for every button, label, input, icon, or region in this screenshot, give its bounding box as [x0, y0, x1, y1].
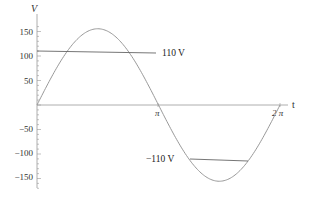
- y-tick-neg100: −100: [14, 148, 33, 158]
- y-axis-label: V: [31, 3, 39, 14]
- x-tick-label-pi: π: [155, 108, 160, 118]
- y-tick-50: 50: [24, 76, 34, 86]
- x-axis-label: t: [292, 99, 295, 110]
- annotation-110v: 110 V: [162, 48, 185, 58]
- y-tick-150: 150: [20, 27, 34, 37]
- sine-chart: V t 150 100 50 −50 −100 −150 π 2 π 110 V…: [0, 0, 312, 199]
- line-110v: [37, 51, 156, 53]
- y-tick-100: 100: [20, 51, 34, 61]
- y-tick-neg150: −150: [14, 172, 33, 182]
- line-neg110v: [190, 159, 248, 161]
- annotation-neg110v: −110 V: [146, 154, 174, 164]
- y-tick-neg50: −50: [19, 124, 34, 134]
